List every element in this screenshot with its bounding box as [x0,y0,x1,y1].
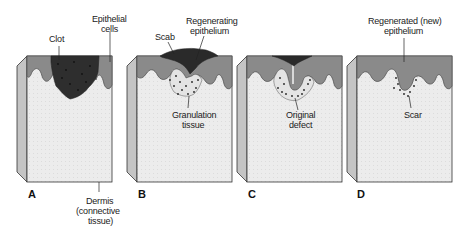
panel-letter-c: C [248,188,256,200]
label-dermis-line1: Dermis [86,196,113,206]
label-epithelial-cells-line2: cells [101,24,118,34]
panel-d-side-face [347,56,357,182]
label-regenerated-line1: Regenerated (new) [368,16,442,26]
panel-a [17,32,112,192]
label-original-line1: Original [286,110,315,120]
panel-b-side-face [127,56,137,182]
label-granulation-line2: tissue [182,120,204,130]
label-original-line2: defect [289,120,312,130]
panel-c-side-face [237,56,247,182]
panel-d [347,38,452,182]
label-scar: Scar [404,110,422,120]
label-dermis-line2: (connective [76,206,120,216]
panel-letter-a: A [28,188,36,200]
label-clot: Clot [49,34,64,44]
label-scab: Scab [155,32,175,42]
label-granulation-line1: Granulation [172,110,216,120]
label-regenerating-line2: epithelium [190,26,229,36]
wound-healing-figure: Clot Epithelial cells Dermis (connective… [0,0,466,236]
label-regenerated-line2: epithelium [384,26,423,36]
panel-a-side-face [17,56,27,182]
label-epithelial-cells-line1: Epithelial [92,14,127,24]
label-regenerating-line1: Regenerating [186,16,238,26]
panel-letter-d: D [357,188,365,200]
panel-letter-b: B [138,188,146,200]
panel-b [127,36,232,182]
label-dermis-line3: tissue) [88,216,113,226]
